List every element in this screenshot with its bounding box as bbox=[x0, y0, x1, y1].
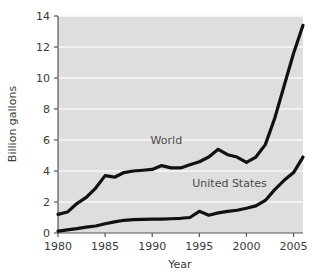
line-chart: 02468101214 198019851990199520002005 Wor… bbox=[0, 0, 325, 278]
x-tick-label: 2000 bbox=[232, 240, 260, 253]
chart-figure: 02468101214 198019851990199520002005 Wor… bbox=[0, 0, 325, 278]
x-tick-label: 2005 bbox=[280, 240, 308, 253]
y-axis-ticks: 02468101214 bbox=[36, 10, 58, 240]
y-tick-label: 0 bbox=[43, 227, 50, 240]
y-tick-label: 14 bbox=[36, 10, 50, 23]
y-tick-label: 4 bbox=[43, 165, 50, 178]
y-tick-label: 12 bbox=[36, 41, 50, 54]
x-axis-ticks: 198019851990199520002005 bbox=[44, 233, 308, 253]
x-tick-label: 1985 bbox=[91, 240, 119, 253]
y-tick-label: 2 bbox=[43, 196, 50, 209]
x-tick-label: 1990 bbox=[138, 240, 166, 253]
x-tick-label: 1980 bbox=[44, 240, 72, 253]
series-label-world: World bbox=[151, 134, 183, 147]
series-label-united-states: United States bbox=[192, 177, 267, 190]
y-tick-label: 8 bbox=[43, 103, 50, 116]
y-tick-label: 10 bbox=[36, 72, 50, 85]
y-axis-title: Billion gallons bbox=[6, 86, 19, 163]
x-tick-label: 1995 bbox=[185, 240, 213, 253]
y-tick-label: 6 bbox=[43, 134, 50, 147]
x-axis-title: Year bbox=[167, 258, 192, 271]
